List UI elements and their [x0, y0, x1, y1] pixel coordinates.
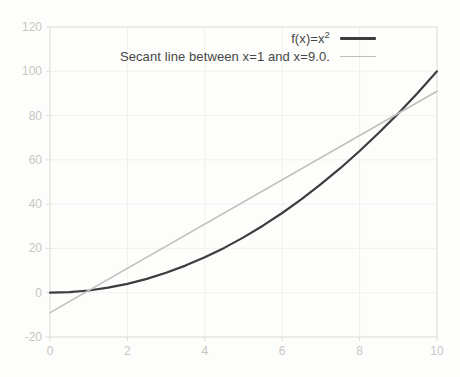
legend-item-secant: Secant line between x=1 and x=9.0. [120, 48, 376, 65]
x-tick-label: 2 [124, 344, 131, 358]
x-tick-label: 6 [279, 344, 286, 358]
x-tick-label: 0 [47, 344, 54, 358]
y-tick-label: 100 [22, 64, 42, 78]
y-tick-label: -20 [25, 330, 43, 344]
y-tick-label: 60 [29, 153, 43, 167]
x-tick-label: 4 [201, 344, 208, 358]
legend-line-sample-fx [340, 37, 376, 39]
y-tick-label: 40 [29, 197, 43, 211]
y-tick-label: 80 [29, 109, 43, 123]
y-tick-label: 20 [29, 241, 43, 255]
x-tick-label: 10 [430, 344, 444, 358]
legend-label-secant: Secant line between x=1 and x=9.0. [120, 49, 330, 64]
secant-line [50, 91, 437, 312]
legend-line-sample-secant [340, 56, 376, 58]
y-tick-label: 0 [35, 286, 42, 300]
legend-item-fx: f(x)=x2 [120, 30, 376, 47]
legend-label-fx-exponent: 2 [325, 29, 330, 40]
x-tick-label: 8 [356, 344, 363, 358]
legend: f(x)=x2 Secant line between x=1 and x=9.… [120, 30, 376, 65]
plot-border [50, 27, 437, 337]
figure: 0246810-20020406080100120 f(x)=x2 Secant… [0, 0, 460, 377]
curve-fx [50, 71, 437, 292]
legend-label-fx: f(x)=x2 [291, 31, 330, 46]
y-tick-label: 120 [22, 20, 42, 34]
